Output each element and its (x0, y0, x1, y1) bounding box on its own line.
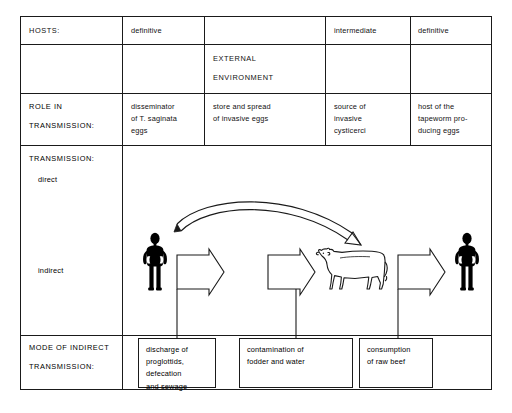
cell-role-cattle: source of invasive cysticerci (334, 101, 366, 138)
mode-box-contamination: contamination of fodder and water (239, 338, 353, 388)
grid-vline-col4 (410, 16, 411, 145)
grid-hline-environment (20, 93, 492, 94)
mode-box-consumption: consumption of raw beef (359, 338, 433, 388)
grid-vline-col3 (325, 16, 326, 145)
row-label-mode-line1: MODE OF INDIRECT (29, 342, 109, 354)
cell-role-human-left: disseminator of T. saginata eggs (131, 101, 177, 138)
cell-external-environment-line1: EXTERNAL (213, 53, 256, 65)
cell-hosts-human-right: definitive (418, 25, 449, 37)
row-label-transmission: TRANSMISSION: (29, 153, 94, 165)
row-label-hosts: HOSTS: (29, 25, 60, 37)
mode-box-contamination-text: contamination of fodder and water (247, 344, 305, 368)
mode-box-discharge-text: discharge of proglottids, defecation and… (146, 344, 188, 393)
cell-hosts-cattle: intermediate (334, 25, 376, 37)
row-label-mode-line2: TRANSMISSION: (29, 361, 94, 373)
diagram-root: HOSTS: definitive intermediate definitiv… (0, 0, 512, 413)
mode-box-consumption-text: consumption of raw beef (367, 344, 411, 368)
grid-vline-col1 (122, 16, 123, 390)
row-label-transmission-indirect: indirect (38, 266, 63, 275)
grid-hline-role (20, 145, 492, 146)
cell-hosts-human-left: definitive (131, 25, 162, 37)
row-label-transmission-direct: direct (38, 175, 57, 184)
grid-hline-transmission (20, 335, 492, 336)
mode-box-discharge: discharge of proglottids, defecation and… (138, 338, 216, 388)
grid-vline-col2 (204, 16, 205, 145)
row-label-role-line2: TRANSMISSION: (29, 120, 94, 132)
cell-role-environment: store and spread of invasive eggs (213, 101, 271, 125)
grid-hline-hosts (20, 44, 492, 45)
cell-external-environment-line2: ENVIRONMENT (213, 72, 274, 84)
row-label-role-line1: ROLE IN (29, 101, 62, 113)
cell-role-human-right: host of the tapeworm pro- ducing eggs (418, 101, 468, 138)
